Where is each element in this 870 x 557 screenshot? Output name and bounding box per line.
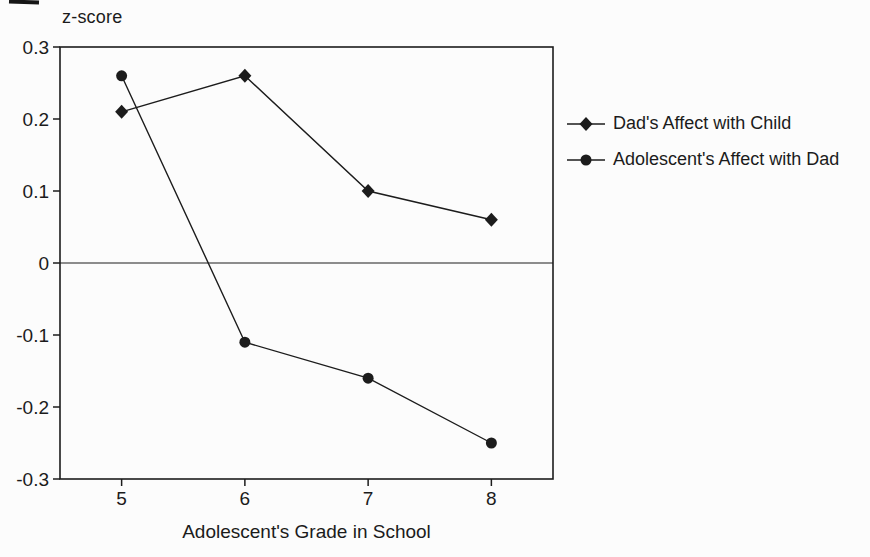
circle-marker [581, 154, 592, 165]
diamond-marker [580, 117, 593, 131]
x-tick-label: 7 [363, 488, 374, 509]
series-line [122, 76, 492, 443]
circle-marker [486, 438, 497, 449]
diamond-marker [115, 105, 128, 119]
y-tick-label: 0.2 [23, 109, 49, 130]
x-axis-title: Adolescent's Grade in School [60, 521, 553, 543]
chart-canvas: z-score 0.30.20.10-0.1-0.2-0.35678 Dad's… [0, 0, 870, 557]
y-tick-label: 0 [38, 253, 49, 274]
legend-label: Adolescent's Affect with Dad [613, 149, 839, 170]
y-tick-label: 0.1 [23, 181, 49, 202]
legend-label: Dad's Affect with Child [613, 113, 791, 134]
circle-marker [116, 70, 127, 81]
circle-marker-icon [566, 152, 606, 168]
circle-marker [363, 373, 374, 384]
circle-marker [239, 337, 250, 348]
line-chart-plot: 0.30.20.10-0.1-0.2-0.35678 [0, 0, 870, 557]
diamond-marker-icon [566, 116, 606, 132]
y-tick-label: -0.3 [16, 469, 49, 490]
x-tick-label: 8 [486, 488, 497, 509]
legend-item-adolescents-affect: Adolescent's Affect with Dad [566, 148, 839, 171]
series-line [122, 76, 492, 220]
diamond-marker [485, 213, 498, 227]
x-tick-label: 5 [116, 488, 127, 509]
y-tick-label: 0.3 [23, 37, 49, 58]
y-tick-label: -0.2 [16, 397, 49, 418]
legend: Dad's Affect with Child Adolescent's Aff… [566, 112, 839, 171]
y-tick-label: -0.1 [16, 325, 49, 346]
legend-item-dads-affect: Dad's Affect with Child [566, 112, 839, 135]
x-tick-label: 6 [240, 488, 251, 509]
